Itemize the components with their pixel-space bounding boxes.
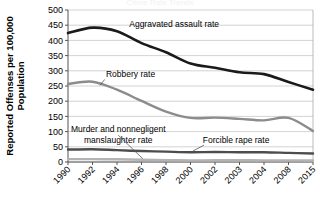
- y-tick-label: 450: [48, 20, 63, 30]
- y-tick-label: 100: [48, 127, 63, 137]
- x-tick-label: 1994: [100, 164, 121, 185]
- y-tick-label: 0: [58, 157, 63, 167]
- x-tick-label: 1990: [51, 164, 72, 185]
- x-tick-label: 2002: [198, 164, 219, 185]
- y-tick-label: 150: [48, 112, 63, 122]
- annotation-murder-line1: Murder and nonnegligent: [71, 124, 166, 134]
- series-line-murder-and-nonnegligent-manslaughter-rate: [68, 159, 313, 160]
- chart-canvas: 050100150200250300350400450500Reported O…: [0, 0, 320, 198]
- x-tick-label: 2008: [272, 164, 293, 185]
- y-tick-label: 500: [48, 5, 63, 15]
- y-axis-title: Reported Offenses per 100,000Population: [4, 16, 26, 155]
- annotation-aggravated-assault: Aggravated assault rate: [129, 19, 219, 29]
- y-axis-title-line1: Reported Offenses per 100,000: [4, 16, 15, 155]
- y-tick-label: 300: [48, 66, 63, 76]
- x-tick-label: 1996: [125, 164, 146, 185]
- x-tick-label: 1998: [149, 164, 170, 185]
- cropped-figure-title: Crime Rate Trends: [126, 0, 193, 7]
- y-axis-title-line2: Population: [15, 61, 26, 110]
- annotation-forcible-rape: Forcible rape rate: [203, 135, 270, 145]
- x-tick-label: 2004: [247, 164, 268, 185]
- annotation-murder-line2: manslaughter rate: [84, 135, 153, 145]
- crime-rate-line-chart: 050100150200250300350400450500Reported O…: [0, 0, 320, 198]
- y-tick-label: 250: [48, 81, 63, 91]
- x-tick-label: 2000: [174, 164, 195, 185]
- y-tick-labels: 050100150200250300350400450500: [48, 5, 68, 167]
- x-tick-label: 2015: [296, 164, 317, 185]
- x-tick-label: 1992: [76, 164, 97, 185]
- x-tick-label: 2003: [223, 164, 244, 185]
- y-tick-label: 50: [53, 142, 63, 152]
- y-tick-label: 200: [48, 96, 63, 106]
- x-tick-labels: 1990199219941996199820002002200320042008…: [51, 162, 317, 186]
- y-tick-label: 400: [48, 36, 63, 46]
- annotation-robbery: Robbery rate: [106, 69, 155, 79]
- y-tick-label: 350: [48, 51, 63, 61]
